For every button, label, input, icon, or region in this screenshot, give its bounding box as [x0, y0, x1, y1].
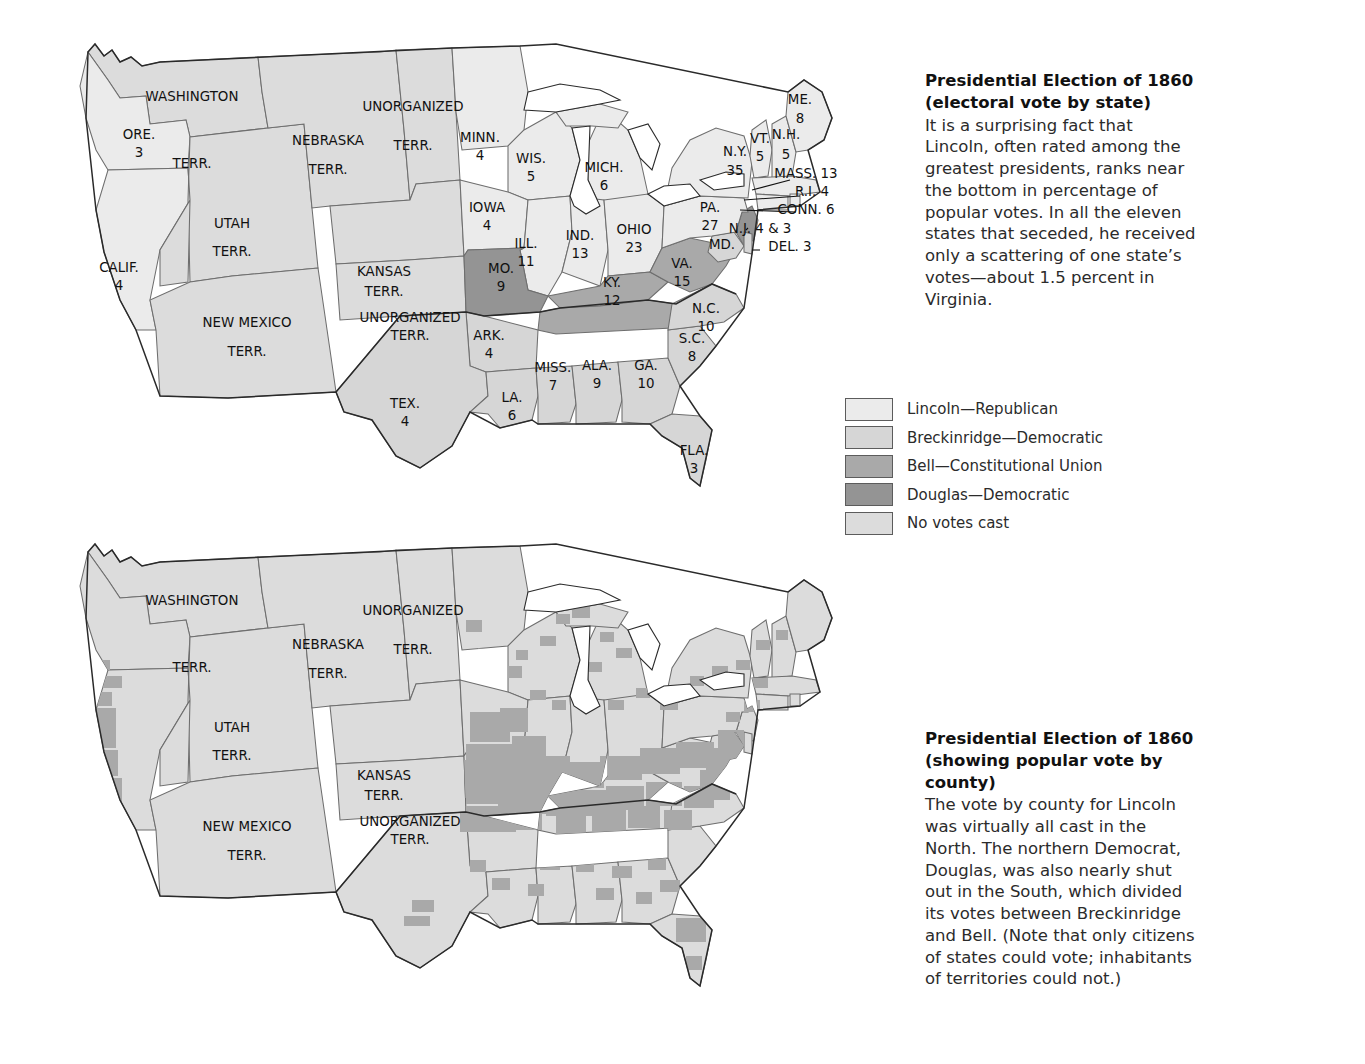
- map-label-california: CALIF.: [99, 260, 139, 275]
- county-patch: [104, 856, 124, 874]
- map-label-north-carolina: N.C.: [692, 301, 720, 316]
- county-patch: [756, 640, 770, 650]
- map-label-washington: WASHINGTON: [146, 593, 239, 608]
- map-label-utah: UTAH: [214, 720, 250, 735]
- map-label-unorg-indian-votes: TERR.: [389, 832, 429, 847]
- county-patch: [660, 880, 680, 892]
- map-callout-new-jersey: N.J. 4 & 3: [729, 221, 792, 236]
- map-label-minnesota: MINN.: [460, 130, 500, 145]
- map-label-wisconsin-votes: 5: [527, 169, 536, 184]
- map-label-maine: ME.: [788, 92, 812, 107]
- legend-label: Breckinridge—Democratic: [907, 429, 1103, 447]
- electoral-map-caption: Presidential Election of 1860 (electoral…: [925, 70, 1200, 310]
- map-label-mississippi: MISS.: [535, 360, 572, 375]
- legend-row: Douglas—Democratic: [845, 481, 1175, 510]
- county-patch: [616, 648, 632, 658]
- map-label-vermont: VT.: [750, 131, 770, 146]
- map-label-kansas: KANSAS: [357, 264, 411, 279]
- map-label-louisiana: LA.: [502, 390, 523, 405]
- county-patch: [628, 806, 660, 828]
- county-patch: [676, 918, 706, 942]
- county-patch: [556, 614, 570, 624]
- county-map-caption: Presidential Election of 1860 (showing p…: [925, 728, 1200, 990]
- legend-swatch: [845, 426, 893, 449]
- county-patch: [100, 810, 118, 832]
- map-label-georgia-votes: 10: [637, 376, 654, 391]
- county-patch: [540, 856, 560, 870]
- map-label-missouri: MO.: [488, 261, 514, 276]
- county-patch: [592, 808, 626, 832]
- map-label-missouri-votes: 9: [497, 279, 506, 294]
- county-patch: [478, 648, 492, 658]
- map-label-texas-votes: 4: [401, 414, 410, 429]
- county-patch: [640, 748, 680, 774]
- county-patch: [100, 676, 122, 688]
- map-label-nebraska: NEBRASKA: [292, 133, 365, 148]
- map-label-california-votes: 4: [115, 278, 124, 293]
- map-callout-maryland: MD.: [709, 237, 735, 252]
- county-patch: [88, 750, 118, 776]
- map-label-mississippi-votes: 7: [549, 378, 558, 393]
- legend-label: Douglas—Democratic: [907, 486, 1069, 504]
- county-patch: [636, 892, 652, 904]
- county-patch: [596, 888, 614, 900]
- map-label-illinois: ILL.: [514, 236, 537, 251]
- county-patch: [96, 660, 110, 670]
- map-label-pennsylvania: PA.: [700, 200, 720, 215]
- county-patch: [560, 762, 604, 788]
- county-patch: [540, 636, 556, 646]
- legend-label: No votes cast: [907, 514, 1009, 532]
- county-patch: [470, 860, 486, 872]
- map-label-new-mexico: NEW MEXICO: [202, 819, 291, 834]
- county-patch: [612, 866, 632, 878]
- county-patch: [686, 956, 702, 970]
- map-label-unorg-north-votes: TERR.: [392, 138, 432, 153]
- state-new-mexico-terr: [150, 268, 336, 398]
- map-callout-delaware: DEL. 3: [768, 239, 811, 254]
- state-delaware: [744, 732, 752, 754]
- county-patch: [726, 712, 740, 722]
- map-label-new-mexico-votes: TERR.: [226, 848, 266, 863]
- map-label-new-hampshire: N.H.: [772, 127, 800, 142]
- county-patch: [492, 878, 510, 890]
- map-label-oregon: ORE.: [123, 127, 156, 142]
- map-label-new-mexico-votes: TERR.: [226, 344, 266, 359]
- caption-title-line1: Presidential Election of 1860: [925, 728, 1200, 750]
- map-label-new-hampshire-votes: 5: [782, 147, 791, 162]
- map-label-iowa-votes: 4: [483, 218, 492, 233]
- county-patch: [608, 700, 624, 710]
- caption-title-line1: Presidential Election of 1860: [925, 70, 1200, 92]
- map-label-texas: TEX.: [389, 396, 420, 411]
- map-label-unorg-indian-votes: TERR.: [389, 328, 429, 343]
- map-label-kansas: KANSAS: [357, 768, 411, 783]
- map-label-oregon-votes: 3: [135, 145, 144, 160]
- map-label-new-york-votes: 35: [726, 163, 743, 178]
- county-patch: [404, 916, 430, 926]
- map-label-virginia: VA.: [671, 256, 693, 271]
- county-patch: [588, 662, 602, 672]
- county-patch: [530, 690, 546, 700]
- legend-row: Lincoln—Republican: [845, 395, 1175, 424]
- county-patch: [112, 876, 126, 888]
- county-patch: [776, 630, 788, 640]
- map-label-indiana-votes: 13: [571, 246, 588, 261]
- map-label-nebraska-votes: TERR.: [307, 666, 347, 681]
- state-maine: [786, 580, 832, 652]
- map-label-arkansas-votes: 4: [485, 346, 494, 361]
- caption-title-line2: (electoral vote by state): [925, 92, 1200, 114]
- legend-label: Bell—Constitutional Union: [907, 457, 1102, 475]
- map-label-unorg-indian: UNORGANIZED: [359, 310, 460, 325]
- caption-body: The vote by county for Lincoln was virtu…: [925, 794, 1200, 990]
- map-label-georgia: GA.: [634, 358, 658, 373]
- map-label-alabama-votes: 9: [593, 376, 602, 391]
- map-label-utah-votes: TERR.: [211, 244, 251, 259]
- map-label-kansas-votes: TERR.: [363, 284, 403, 299]
- county-patch: [664, 810, 692, 830]
- map-label-north-carolina-votes: 10: [697, 319, 714, 334]
- county-patch: [648, 858, 666, 870]
- map-label-virginia-votes: 15: [673, 274, 690, 289]
- map-label-pennsylvania-votes: 27: [701, 218, 718, 233]
- legend-swatch: [845, 398, 893, 421]
- caption-body: It is a surprising fact that Lincoln, of…: [925, 115, 1200, 311]
- legend-row: Breckinridge—Democratic: [845, 424, 1175, 453]
